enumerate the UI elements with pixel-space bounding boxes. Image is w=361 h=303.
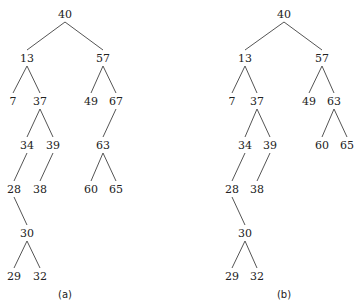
tree-node: 37 [33, 96, 47, 107]
tree-node: 40 [277, 9, 291, 20]
tree-node: 13 [20, 53, 34, 64]
tree-node: 13 [238, 53, 252, 64]
tree-edge [322, 66, 334, 93]
tree-node: 29 [225, 271, 239, 282]
tree-edge [14, 241, 27, 268]
tree-node: 65 [340, 140, 354, 151]
tree-node: 60 [84, 184, 98, 195]
tree-caption: (b) [277, 289, 291, 300]
tree-edge [257, 153, 270, 181]
tree-node: 40 [58, 9, 72, 20]
tree-node: 34 [20, 140, 34, 151]
tree-edge [65, 22, 103, 50]
tree-node: 7 [229, 96, 236, 107]
tree-node: 39 [263, 140, 277, 151]
tree-node: 7 [10, 96, 17, 107]
tree-edge [103, 66, 116, 93]
tree-node: 67 [109, 96, 123, 107]
tree-node: 38 [33, 184, 47, 195]
tree-edge [103, 153, 116, 181]
tree-edge [245, 241, 257, 268]
tree-edge [27, 66, 40, 93]
tree-edge [13, 66, 27, 93]
tree-caption: (a) [58, 289, 72, 300]
tree-edge [14, 153, 27, 181]
tree-edge [309, 66, 322, 93]
tree-node: 30 [20, 228, 34, 239]
tree-edge [91, 66, 103, 93]
tree-node: 32 [33, 271, 47, 282]
tree-edge [27, 22, 65, 50]
tree-node: 37 [250, 96, 264, 107]
tree-edge [27, 241, 40, 268]
tree-edge [334, 109, 347, 137]
tree-node: 30 [238, 228, 252, 239]
tree-node: 28 [225, 184, 239, 195]
tree-edge [245, 66, 257, 93]
tree-node: 63 [96, 140, 110, 151]
tree-node: 28 [7, 184, 21, 195]
tree-edge [284, 22, 322, 50]
tree-edge [245, 109, 257, 137]
tree-edge [232, 197, 245, 225]
tree-edge [40, 109, 53, 137]
tree-edge [91, 153, 103, 181]
tree-node: 29 [7, 271, 21, 282]
tree-node: 49 [302, 96, 316, 107]
tree-edge [27, 109, 40, 137]
tree-edge [232, 153, 245, 181]
tree-edge [103, 109, 116, 137]
tree-node: 32 [250, 271, 264, 282]
tree-node: 65 [109, 184, 123, 195]
tree-node: 49 [84, 96, 98, 107]
tree-node: 38 [250, 184, 264, 195]
tree-node: 63 [327, 96, 341, 107]
tree-edge [257, 109, 270, 137]
tree-node: 60 [315, 140, 329, 151]
tree-node: 57 [315, 53, 329, 64]
tree-edges [0, 0, 361, 303]
tree-node: 57 [96, 53, 110, 64]
tree-edge [14, 197, 27, 225]
tree-edge [232, 66, 245, 93]
tree-node: 34 [238, 140, 252, 151]
tree-edge [40, 153, 53, 181]
tree-edge [232, 241, 245, 268]
tree-edge [245, 22, 284, 50]
tree-node: 39 [46, 140, 60, 151]
tree-edge [322, 109, 334, 137]
